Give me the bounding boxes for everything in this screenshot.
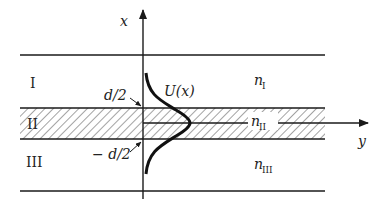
region-i-label: I <box>30 75 36 91</box>
svg-text:II: II <box>259 122 267 132</box>
d-half-pointer-arrow <box>130 98 141 106</box>
n-ii-label: n II <box>248 112 278 132</box>
x-axis-label: x <box>120 13 128 29</box>
mode-profile-label: U(x) <box>164 83 195 99</box>
n-iii-label: n III <box>254 156 273 175</box>
minus-d-half-pointer-arrow <box>130 142 141 152</box>
region-ii-label: II <box>27 116 38 132</box>
waveguide-diagram: x y I II III n I n II n III d/2 − d/2 U(… <box>0 0 384 208</box>
region-iii-label: III <box>26 154 43 170</box>
svg-text:III: III <box>262 165 273 175</box>
y-axis-label: y <box>357 133 367 149</box>
upper-boundary-label: d/2 <box>104 87 127 103</box>
svg-text:I: I <box>262 81 266 91</box>
n-i-label: n I <box>254 72 266 91</box>
lower-boundary-label: − d/2 <box>92 146 131 162</box>
